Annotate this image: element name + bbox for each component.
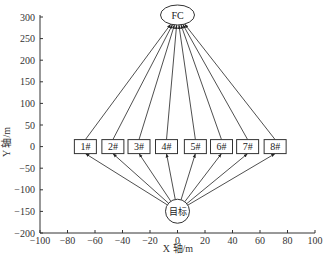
sensor-label: 3#: [134, 141, 144, 152]
edge-sensor-to-fc: [185, 24, 276, 140]
sensor-network-diagram: −200−150−100−50050100150200250300−100−80…: [0, 0, 326, 266]
y-tick-label: −50: [19, 163, 35, 174]
y-tick-label: 50: [25, 120, 35, 131]
y-tick-label: −100: [14, 184, 35, 195]
edge-sensor-to-fc: [167, 25, 177, 140]
sensor-label: 4#: [162, 141, 172, 152]
fusion-center-label: FC: [171, 10, 184, 21]
x-tick-label: 20: [200, 235, 210, 246]
edges: [85, 24, 275, 205]
x-tick-label: −60: [87, 235, 103, 246]
sensor-label: 5#: [190, 141, 200, 152]
x-tick-label: −100: [30, 235, 51, 246]
y-tick-label: 300: [20, 12, 35, 23]
edge-target-to-sensor: [181, 154, 195, 200]
nodes: FC目标1#2#3#4#5#6#7#8#: [74, 5, 286, 223]
y-tick-label: 0: [30, 141, 35, 152]
edge-target-to-sensor: [139, 154, 171, 202]
edge-target-to-sensor: [188, 154, 275, 206]
target-label: 目标: [169, 206, 187, 217]
x-tick-label: −40: [115, 235, 131, 246]
y-axis-title: Y 轴/m: [0, 127, 12, 157]
edge-sensor-to-fc: [85, 24, 170, 139]
edge-target-to-sensor: [113, 154, 169, 204]
x-tick-label: −20: [142, 235, 158, 246]
edge-target-to-sensor: [85, 154, 167, 205]
y-tick-label: 150: [20, 76, 35, 87]
edge-sensor-to-fc: [139, 25, 174, 140]
x-tick-label: 40: [228, 235, 238, 246]
sensor-label: 6#: [217, 141, 227, 152]
edge-target-to-sensor: [187, 154, 248, 204]
x-tick-label: −80: [60, 235, 76, 246]
y-tick-label: −150: [14, 206, 35, 217]
x-tick-label: 80: [283, 235, 293, 246]
edge-target-to-sensor: [185, 154, 222, 202]
sensor-label: 8#: [270, 141, 280, 152]
sensor-label: 1#: [80, 141, 90, 152]
edge-target-to-sensor: [167, 154, 176, 200]
y-tick-label: 100: [20, 98, 35, 109]
y-tick-label: 200: [20, 55, 35, 66]
x-axis-title: X 轴/m: [163, 242, 194, 254]
x-tick-label: 100: [308, 235, 323, 246]
edge-sensor-to-fc: [113, 25, 173, 140]
sensor-label: 7#: [243, 141, 253, 152]
y-tick-label: 250: [20, 33, 35, 44]
x-tick-label: 60: [255, 235, 265, 246]
sensor-label: 2#: [108, 141, 118, 152]
